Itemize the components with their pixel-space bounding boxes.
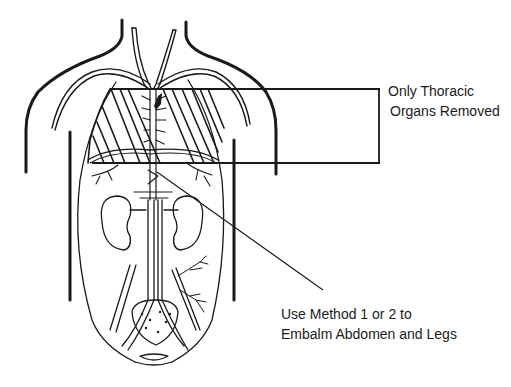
abdomen-label-line2: Embalm Abdomen and Legs xyxy=(281,324,457,344)
aorta xyxy=(110,200,200,350)
thoracic-label-line2: Organs Removed xyxy=(390,101,500,121)
abdomen-label: Use Method 1 or 2 to Embalm Abdomen and … xyxy=(281,304,457,344)
abdomen-leader-line xyxy=(157,172,323,290)
neck-vessels xyxy=(132,28,176,88)
bladder-dots xyxy=(141,311,171,333)
thoracic-label: Only Thoracic Organs Removed xyxy=(388,81,500,121)
abdominal-vessels xyxy=(92,164,212,198)
body-outline xyxy=(26,20,276,300)
right-kidney xyxy=(173,196,202,250)
diaphragm-inner xyxy=(90,153,216,163)
abdomen-label-line1: Use Method 1 or 2 to xyxy=(281,304,457,324)
left-kidney xyxy=(101,196,130,250)
thoracic-label-line1: Only Thoracic xyxy=(388,81,500,101)
heart-mark xyxy=(154,93,162,110)
bladder xyxy=(132,300,178,345)
thoracic-vessels xyxy=(142,90,166,200)
